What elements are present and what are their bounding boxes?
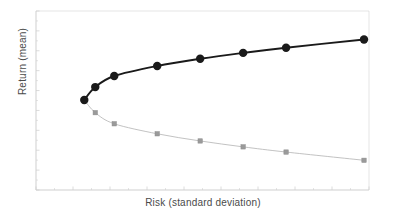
chart-figure: Return (mean) Risk (standard deviation) — [0, 0, 395, 219]
data-point-markers — [80, 35, 368, 162]
series-lines — [84, 39, 364, 160]
plot-canvas — [0, 0, 395, 219]
